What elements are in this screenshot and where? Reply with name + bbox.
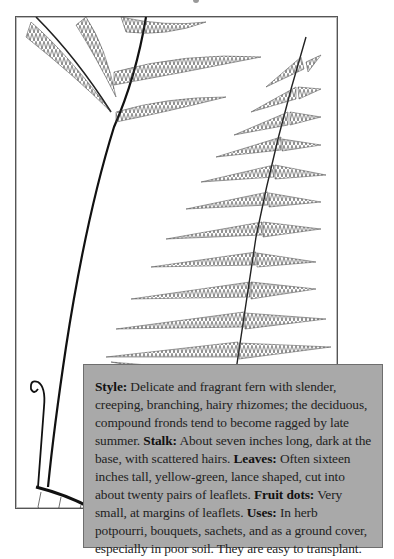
uses-label: Uses: xyxy=(247,505,277,520)
cut-off-text-fragment xyxy=(193,0,199,3)
stalk-label: Stalk: xyxy=(143,433,177,448)
fruit-dots-label: Fruit dots: xyxy=(254,487,314,502)
style-label: Style: xyxy=(95,379,127,394)
leaves-label: Leaves: xyxy=(234,451,277,466)
fern-description-text: Style: Delicate and fragrant fern with s… xyxy=(95,378,372,558)
fern-description-box: Style: Delicate and fragrant fern with s… xyxy=(83,364,383,548)
